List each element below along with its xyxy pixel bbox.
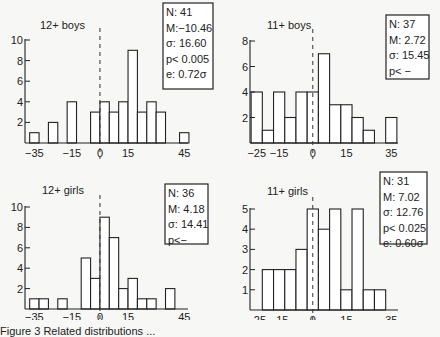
y-tick-label: 6 [17, 242, 23, 254]
stats-line: σ: 15.45 [389, 49, 429, 61]
stats-line: σ: 14.41 [168, 218, 208, 230]
x-tick-label: 15 [122, 147, 134, 159]
chart-11-girls: 12345−25−150153511+ girlsN: 31M: 7.02σ: … [220, 160, 440, 320]
histogram-bar [137, 112, 146, 143]
histogram: 2468−25−150153511+ boysN: 37M: 2.72σ: 15… [220, 0, 440, 160]
stats-line: M: 7.02 [383, 191, 420, 203]
histogram: 246810−35−150154512+ girlsN: 36M: 4.18σ:… [0, 160, 220, 320]
histogram-bar [81, 258, 90, 309]
histogram-bar [341, 290, 352, 310]
histogram-bar [109, 238, 118, 309]
stats-line: M: 4.18 [168, 203, 205, 215]
x-tick-label: 45 [178, 311, 190, 320]
histogram-bar [119, 102, 128, 143]
histogram-bar [48, 122, 57, 143]
histogram-bar [30, 299, 39, 309]
histogram-bar [352, 118, 363, 144]
x-tick-label: 15 [340, 147, 352, 159]
y-tick-label: 6 [242, 61, 248, 73]
x-tick-label: −15 [270, 314, 289, 320]
stats-line: N: 36 [168, 187, 194, 199]
histogram-bar [262, 130, 273, 143]
x-tick-label: 35 [385, 314, 397, 320]
stats-line: M: 2.72 [389, 34, 426, 46]
histogram-bar [262, 270, 273, 310]
y-tick-label: 2 [242, 264, 248, 276]
chart-12-girls: 246810−35−150154512+ girlsN: 36M: 4.18σ:… [0, 160, 220, 320]
histogram-bar [352, 209, 363, 310]
chart-title: 12+ girls [42, 184, 84, 196]
histogram-bar [363, 290, 374, 310]
histogram: 246810−35−150154512+ boysN: 41M:−10.46σ:… [0, 0, 220, 160]
histogram-bar [100, 102, 109, 143]
stats-line: p<− [168, 234, 187, 246]
histogram-bar [296, 249, 307, 310]
x-tick-label: −25 [247, 147, 266, 159]
x-tick-label: −25 [247, 314, 266, 320]
x-tick-label: −35 [25, 147, 44, 159]
histogram-bar [119, 289, 128, 309]
x-tick-label: 35 [385, 147, 397, 159]
y-tick-label: 10 [11, 201, 23, 213]
histogram-bar [100, 217, 109, 309]
figure-caption: Figure 3 Related distributions ... [0, 325, 155, 337]
chart-11-boys: 2468−25−150153511+ boysN: 37M: 2.72σ: 15… [220, 0, 440, 160]
histogram-bar [285, 118, 296, 144]
histogram-bar [39, 299, 48, 309]
histogram-bar [330, 105, 341, 143]
histogram: 12345−25−150153511+ girlsN: 31M: 7.02σ: … [220, 160, 440, 320]
x-tick-label: −15 [270, 147, 289, 159]
stats-line: N: 41 [166, 6, 192, 18]
histogram-bar [67, 102, 76, 143]
histogram-bar [128, 278, 137, 309]
histogram-bar [386, 118, 397, 144]
x-tick-label: −15 [63, 147, 82, 159]
histogram-bar [91, 278, 100, 309]
y-tick-label: 8 [17, 55, 23, 67]
histogram-bar [30, 133, 39, 143]
stats-line: N: 31 [383, 175, 409, 187]
x-tick-label: −15 [63, 311, 82, 320]
y-tick-label: 2 [17, 283, 23, 295]
x-tick-label: 15 [340, 314, 352, 320]
y-tick-label: 4 [17, 96, 23, 108]
stats-line: p< − [389, 65, 411, 77]
histogram-bar [109, 112, 118, 143]
histogram-bar [274, 92, 285, 143]
y-tick-label: 2 [17, 116, 23, 128]
histogram-bar [147, 299, 156, 309]
histogram-bar [147, 102, 156, 143]
stats-line: N: 37 [389, 18, 415, 30]
stats-line: σ: 16.60 [166, 37, 206, 49]
histogram-bar [330, 209, 341, 310]
stats-line: e: 0.60σ [383, 237, 424, 249]
stats-line: p< 0.005 [166, 53, 209, 65]
histogram-bar [296, 92, 307, 143]
histogram-bar [91, 112, 100, 143]
histogram-bar [128, 50, 137, 143]
x-tick-label: −35 [25, 311, 44, 320]
stats-line: M:−10.46 [166, 22, 212, 34]
chart-title: 12+ boys [40, 19, 85, 31]
histogram-bar [374, 290, 385, 310]
histogram-bar [274, 270, 285, 310]
y-tick-label: 8 [17, 221, 23, 233]
y-tick-label: 10 [11, 34, 23, 46]
y-tick-label: 4 [17, 262, 23, 274]
histogram-bar [318, 54, 329, 143]
y-tick-label: 2 [242, 112, 248, 124]
histogram-bar [58, 299, 67, 309]
x-tick-label: 45 [178, 147, 190, 159]
stats-line: σ: 12.76 [383, 206, 423, 218]
stats-line: e: 0.72σ [166, 68, 207, 80]
y-tick-label: 5 [242, 203, 248, 215]
y-tick-label: 8 [242, 35, 248, 47]
histogram-bar [363, 130, 374, 143]
y-tick-label: 4 [242, 86, 248, 98]
chart-12-boys: 246810−35−150154512+ boysN: 41M:−10.46σ:… [0, 0, 220, 160]
stats-line: p< 0.025 [383, 222, 426, 234]
y-tick-label: 6 [17, 75, 23, 87]
histogram-bar [137, 299, 146, 309]
chart-title: 11+ girls [267, 185, 309, 197]
x-tick-label: 15 [122, 311, 134, 320]
